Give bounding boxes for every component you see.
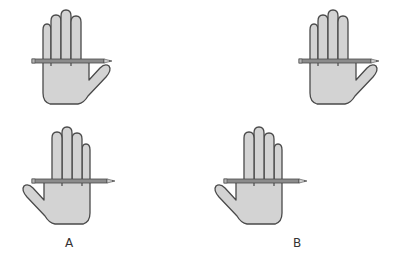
hands-figure	[0, 0, 397, 266]
panel-label-b: B	[293, 236, 301, 250]
panel-label-a: A	[65, 236, 73, 250]
panel-b-top-hand	[299, 10, 379, 104]
panel-a-top-hand	[32, 10, 112, 104]
panel-b-bottom-hand	[215, 127, 307, 224]
panel-a-bottom-hand	[23, 127, 115, 224]
